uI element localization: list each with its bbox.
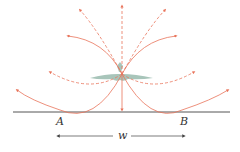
point-a-label: A <box>56 116 64 127</box>
point-b-label: B <box>180 116 188 127</box>
dashed-rays <box>50 6 194 84</box>
width-label: w <box>118 130 127 141</box>
aircraft-icon <box>90 62 153 81</box>
